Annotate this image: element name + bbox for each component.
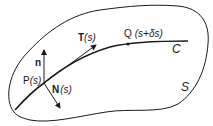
point-q-marker bbox=[126, 42, 129, 45]
curve-normal-label: N(s) bbox=[52, 84, 72, 95]
tangent-arrow bbox=[44, 45, 96, 83]
curve-label: C bbox=[172, 42, 181, 56]
tangent-label-arg: (s) bbox=[84, 32, 96, 43]
curve-normal-label-arg: (s) bbox=[60, 84, 72, 95]
curve-normal-label-main: N bbox=[52, 84, 59, 95]
tangent-label: T(s) bbox=[78, 32, 96, 43]
point-q-label-arg: (s+δs) bbox=[135, 28, 163, 39]
point-p-label-arg: (s) bbox=[30, 75, 42, 86]
point-p-label: P(s) bbox=[23, 75, 41, 86]
surface-curve-diagram: n P(s) N(s) T(s) Q(s+δs) C S bbox=[0, 0, 213, 126]
point-q-label: Q(s+δs) bbox=[124, 28, 163, 39]
surface-normal-label: n bbox=[35, 57, 41, 68]
point-q-label-main: Q bbox=[124, 28, 132, 39]
surface-label: S bbox=[181, 80, 189, 94]
